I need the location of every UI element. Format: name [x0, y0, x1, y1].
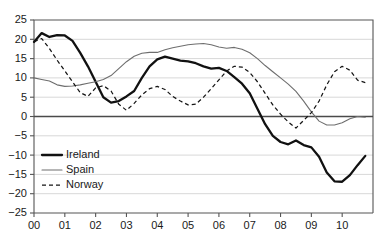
y-tick-label: −5 — [14, 129, 27, 141]
legend-label-norway: Norway — [66, 178, 104, 190]
x-tick-label: 07 — [244, 219, 256, 231]
x-tick-label: 08 — [274, 219, 286, 231]
x-tick-label: 02 — [90, 219, 102, 231]
y-tick-label: 5 — [21, 91, 27, 103]
x-tick-label: 03 — [120, 219, 132, 231]
chart-canvas: 2520151050−5−10−15−20−25 000102030405060… — [0, 0, 391, 238]
y-tick-label: 20 — [15, 33, 27, 45]
legend-label-spain: Spain — [66, 163, 94, 175]
x-tick-label: 09 — [305, 219, 317, 231]
y-tick-label: −25 — [8, 206, 27, 218]
y-tick-label: 15 — [15, 52, 27, 64]
y-tick-label: −15 — [8, 168, 27, 180]
y-tick-label: 25 — [15, 13, 27, 25]
x-tick-label: 00 — [28, 219, 40, 231]
x-tick-label: 06 — [213, 219, 225, 231]
y-tick-label: 10 — [15, 71, 27, 83]
y-tick-label: −20 — [8, 187, 27, 199]
x-tick-label: 10 — [336, 219, 348, 231]
x-tick-label: 05 — [182, 219, 194, 231]
line-chart: 2520151050−5−10−15−20−25 000102030405060… — [0, 0, 391, 238]
y-tick-label: 0 — [21, 110, 27, 122]
x-tick-label: 01 — [59, 219, 71, 231]
x-tick-label: 04 — [151, 219, 163, 231]
y-tick-label: −10 — [8, 149, 27, 161]
legend-label-ireland: Ireland — [66, 148, 100, 160]
